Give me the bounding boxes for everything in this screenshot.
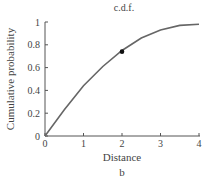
x-axis: 01234 bbox=[43, 133, 202, 149]
x-axis-label: Distance bbox=[103, 151, 142, 163]
x-tick-label: 1 bbox=[81, 138, 86, 149]
x-tick-label: 4 bbox=[197, 138, 202, 149]
cdf-chart: c.d.f. 00.20.40.60.81 01234 Cumulative p… bbox=[0, 0, 207, 188]
x-tick-label: 2 bbox=[120, 138, 125, 149]
y-tick-label: 1 bbox=[35, 17, 40, 28]
y-axis: 00.20.40.60.81 bbox=[28, 17, 49, 142]
y-tick-label: 0.2 bbox=[28, 108, 41, 119]
panel-label: b bbox=[119, 166, 125, 178]
y-tick-label: 0 bbox=[35, 131, 40, 142]
highlight-point bbox=[120, 49, 125, 54]
chart-title: c.d.f. bbox=[114, 2, 134, 13]
cdf-curve bbox=[45, 24, 199, 136]
y-tick-label: 0.4 bbox=[28, 85, 41, 96]
y-tick-label: 0.8 bbox=[28, 39, 41, 50]
x-tick-label: 3 bbox=[158, 138, 163, 149]
x-tick-label: 0 bbox=[43, 138, 48, 149]
y-tick-label: 0.6 bbox=[28, 62, 41, 73]
y-axis-label: Cumulative probability bbox=[4, 27, 16, 130]
